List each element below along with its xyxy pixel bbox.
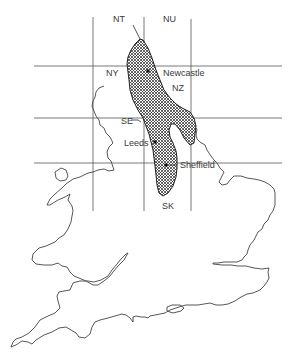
city-label-sheffield: Sheffield — [180, 160, 215, 170]
grid-label-sk: SK — [162, 201, 174, 211]
city-marker-newcastle — [147, 70, 150, 73]
england-grid-map: NT NU NY NZ SE SK Newcastle Leeds Sheffi… — [0, 0, 293, 364]
shaded-region — [127, 39, 196, 196]
city-marker-sheffield — [165, 164, 168, 167]
river-tail — [133, 25, 140, 39]
grid-label-nz: NZ — [172, 83, 184, 93]
coastline — [11, 86, 275, 347]
anglesey-island — [55, 168, 68, 181]
city-label-newcastle: Newcastle — [163, 68, 205, 78]
city-label-leeds: Leeds — [124, 138, 149, 148]
grid-label-nt: NT — [113, 14, 125, 24]
cumbria-coast — [11, 86, 275, 347]
isle-of-wight — [167, 305, 184, 313]
grid-label-nu: NU — [163, 14, 176, 24]
grid-label-se: SE — [121, 116, 133, 126]
grid-label-ny: NY — [106, 68, 119, 78]
city-marker-leeds — [154, 141, 157, 144]
